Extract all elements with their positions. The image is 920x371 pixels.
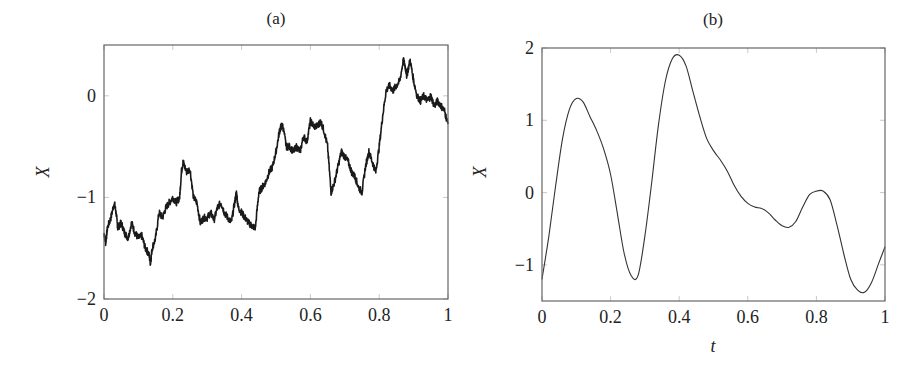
x-tick-label: 1 [881, 307, 890, 327]
chart-b-frame [542, 48, 885, 301]
chart-a-line [104, 58, 448, 265]
x-tick-label: 0.6 [737, 307, 760, 327]
chart-b-axes: 00.20.40.60.81210−1 [515, 38, 890, 327]
chart-b-xlabel: t [710, 336, 716, 356]
y-tick-label: −1 [77, 187, 96, 207]
y-tick-label: −2 [77, 289, 96, 309]
x-tick-label: 0.6 [299, 305, 322, 325]
y-tick-label: 2 [525, 38, 534, 58]
x-tick-label: 0.4 [668, 307, 691, 327]
chart-b-title: (b) [703, 10, 723, 29]
chart-a-frame [104, 45, 448, 299]
chart-a-svg: (a) 00.20.40.60.810−1−2 X [0, 0, 460, 371]
y-tick-label: 0 [525, 183, 534, 203]
chart-b-line [542, 55, 885, 293]
x-tick-label: 0 [538, 307, 547, 327]
chart-b-ylabel: X [470, 166, 490, 179]
x-tick-label: 0.8 [368, 305, 391, 325]
y-tick-label: 0 [87, 86, 96, 106]
chart-a-ylabel: X [33, 166, 53, 179]
x-tick-label: 0 [100, 305, 109, 325]
y-tick-label: 1 [525, 110, 534, 130]
x-tick-label: 0.2 [162, 305, 185, 325]
x-tick-label: 1 [444, 305, 453, 325]
chart-a-title: (a) [267, 9, 286, 28]
y-tick-label: −1 [515, 255, 534, 275]
x-tick-label: 0.4 [230, 305, 253, 325]
x-tick-label: 0.2 [599, 307, 622, 327]
x-tick-label: 0.8 [805, 307, 828, 327]
chart-panel-a: (a) 00.20.40.60.810−1−2 X [0, 0, 460, 371]
